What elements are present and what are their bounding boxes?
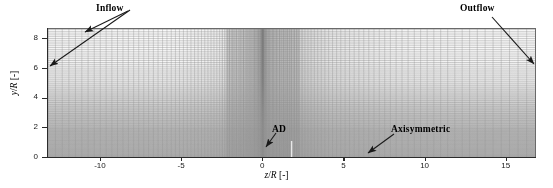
- annotation-inflow: Inflow: [96, 3, 124, 13]
- annotation-outflow: Outflow: [460, 3, 495, 13]
- axisymmetric-arrow: [368, 134, 394, 153]
- ad-arrow: [266, 133, 276, 147]
- annotation-axisymmetric: Axisymmetric: [391, 124, 450, 134]
- inflow-arrow-left: [50, 10, 130, 66]
- inflow-arrow-top: [85, 11, 128, 32]
- annotation-arrows: [0, 0, 553, 188]
- outflow-arrow: [492, 17, 534, 64]
- annotation-ad: AD: [272, 124, 286, 134]
- mesh-figure: -10-505101502468 y/R [-] z/R [-] Inflow …: [0, 0, 553, 188]
